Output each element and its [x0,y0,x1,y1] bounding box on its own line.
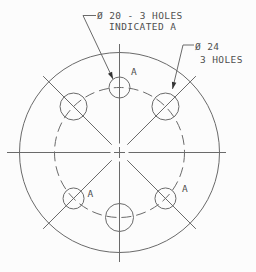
radial-centerline [43,76,112,145]
radial-centerline [127,160,196,229]
hole-label-a-top: A [131,66,137,77]
leader-arrowhead-large_holes [172,82,176,89]
callout-large-holes-line1: Ø 24 [195,41,219,52]
drawing-annotations: Ø 20 - 3 HOLES INDICATED A Ø 24 3 HOLES … [88,10,243,200]
drawing-canvas: Ø 20 - 3 HOLES INDICATED A Ø 24 3 HOLES … [0,0,256,272]
hole-label-a-lower-right: A [182,183,188,194]
callout-small-holes-line1: Ø 20 - 3 HOLES [97,10,183,21]
flange-drawing: Ø 20 - 3 HOLES INDICATED A Ø 24 3 HOLES … [0,0,256,272]
callout-large-holes-line2: 3 HOLES [200,54,243,65]
leader-arrowhead-small_holes [108,72,113,79]
hole-label-a-lower-left: A [88,188,94,199]
radial-centerline [127,76,196,145]
callout-small-holes-line2: INDICATED A [109,21,176,32]
radial-centerline [43,160,112,229]
drawing-geometry [7,16,226,263]
